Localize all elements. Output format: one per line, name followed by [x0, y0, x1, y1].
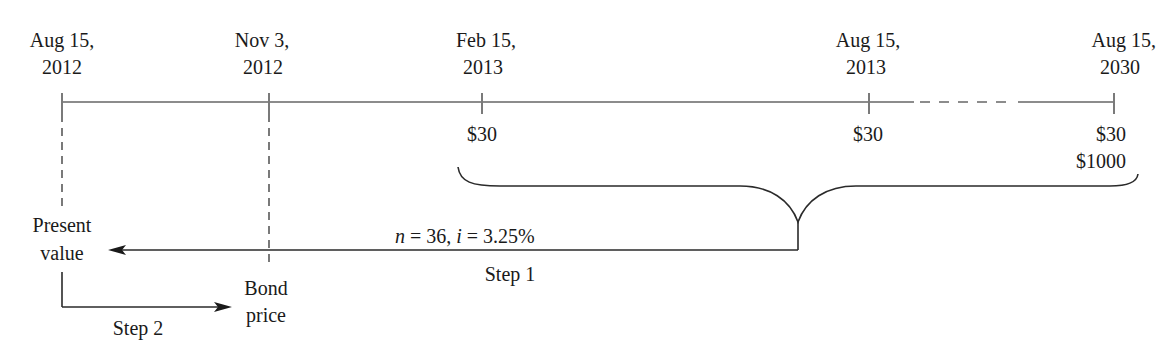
payment-amount: $30	[853, 123, 883, 145]
date-label: Feb 15,	[456, 29, 516, 51]
date-label: Aug 15,	[1092, 29, 1156, 52]
present-value-label: Present	[33, 214, 92, 236]
timeline-ticks	[62, 93, 1114, 114]
present-value-label: value	[40, 242, 83, 264]
payment-labels: $30 $30 $30 $1000	[467, 123, 1126, 172]
date-label: Aug 15,	[836, 29, 900, 52]
bond-price-label: price	[246, 304, 286, 327]
date-label: 2030	[1100, 56, 1140, 78]
bond-timeline-diagram: Aug 15, 2012 Nov 3, 2012 Feb 15, 2013 Au…	[0, 0, 1167, 362]
step1-label: Step 1	[485, 263, 536, 286]
payment-amount: $30	[1096, 123, 1126, 145]
face-value: $1000	[1076, 150, 1126, 172]
payments-brace	[458, 167, 1138, 222]
step1-formula: n = 36, i = 3.25%	[395, 225, 535, 247]
payment-amount: $30	[467, 123, 497, 145]
bond-price-label: Bond	[244, 277, 287, 299]
date-label: Aug 15,	[30, 29, 94, 52]
date-label: 2012	[243, 56, 283, 78]
step2-arrow	[62, 272, 232, 312]
date-label: 2013	[463, 56, 503, 78]
date-label: 2012	[42, 56, 82, 78]
date-labels: Aug 15, 2012 Nov 3, 2012 Feb 15, 2013 Au…	[30, 29, 1156, 78]
step2-label: Step 2	[113, 317, 164, 340]
date-label: 2013	[846, 56, 886, 78]
date-label: Nov 3,	[235, 29, 289, 51]
